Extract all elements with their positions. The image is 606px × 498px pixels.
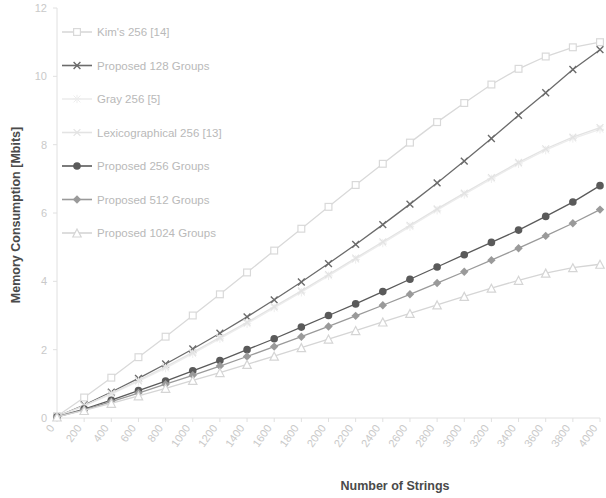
data-point-marker <box>379 288 387 296</box>
legend-label: Proposed 512 Groups <box>97 194 210 206</box>
data-point-marker <box>379 301 387 309</box>
data-point-marker <box>324 322 332 330</box>
x-tick-label: 2400 <box>359 422 383 449</box>
data-point-marker <box>74 29 81 36</box>
data-point-marker <box>488 135 495 142</box>
data-point-marker <box>460 251 468 259</box>
data-point-marker <box>298 279 305 286</box>
data-point-marker <box>514 244 522 252</box>
data-point-marker <box>596 182 604 190</box>
legend-label: Lexicographical 256 [13] <box>97 127 222 139</box>
data-point-marker <box>514 276 522 284</box>
data-point-marker <box>379 318 387 326</box>
data-point-marker <box>379 160 386 167</box>
data-point-marker <box>515 65 522 72</box>
data-point-marker <box>407 201 414 208</box>
data-point-marker <box>488 239 496 247</box>
data-point-marker <box>569 44 576 51</box>
data-point-marker <box>406 290 414 298</box>
data-point-marker <box>569 219 577 227</box>
data-point-marker <box>243 360 251 368</box>
data-point-marker <box>352 241 359 248</box>
x-tick-label: 400 <box>91 422 111 444</box>
x-tick-label: 4000 <box>576 422 600 449</box>
data-point-marker <box>434 180 441 187</box>
legend-label: Proposed 1024 Groups <box>97 227 216 239</box>
data-point-marker <box>460 292 468 300</box>
legend-item-6[interactable]: Proposed 1024 Groups <box>62 227 216 239</box>
data-point-marker <box>407 139 414 146</box>
x-tick-label: 1600 <box>250 422 274 449</box>
x-tick-label: 2800 <box>413 422 437 449</box>
data-point-marker <box>487 256 495 264</box>
data-point-marker <box>461 158 468 165</box>
legend-label: Gray 256 [5] <box>97 93 160 105</box>
data-point-marker <box>406 275 414 283</box>
y-tick-label: 8 <box>41 139 47 151</box>
legend-item-2[interactable]: Gray 256 [5] <box>62 93 160 105</box>
data-point-marker <box>270 342 278 350</box>
data-point-marker <box>298 225 305 232</box>
legend-item-5[interactable]: Proposed 512 Groups <box>62 194 210 206</box>
x-tick-label: 600 <box>118 422 138 444</box>
memory-consumption-chart: 0246810120200400600800100012001400160018… <box>0 0 606 498</box>
data-point-marker <box>515 226 523 234</box>
data-point-marker <box>325 260 332 267</box>
y-tick-label: 10 <box>35 70 47 82</box>
x-tick-label: 1400 <box>223 422 247 449</box>
data-point-marker <box>297 344 305 352</box>
data-point-marker <box>515 112 522 119</box>
y-tick-label: 2 <box>41 344 47 356</box>
data-point-marker <box>488 81 495 88</box>
x-tick-label: 3600 <box>521 422 545 449</box>
y-tick-label: 12 <box>35 2 47 14</box>
x-tick-label: 1200 <box>196 422 220 449</box>
x-tick-label: 1800 <box>277 422 301 449</box>
data-point-marker <box>569 198 577 206</box>
data-point-marker <box>433 263 441 271</box>
x-tick-label: 2600 <box>386 422 410 449</box>
data-point-marker <box>569 66 576 73</box>
data-point-marker <box>189 312 196 319</box>
chart-canvas: 0246810120200400600800100012001400160018… <box>0 0 606 498</box>
data-point-marker <box>461 100 468 107</box>
legend-label: Proposed 256 Groups <box>97 160 210 172</box>
data-point-marker <box>597 46 604 53</box>
data-point-marker <box>324 335 332 343</box>
data-point-marker <box>271 247 278 254</box>
data-point-marker <box>135 354 142 361</box>
data-point-marker <box>352 300 360 308</box>
data-point-marker <box>162 333 169 340</box>
legend-item-1[interactable]: Proposed 128 Groups <box>62 60 210 72</box>
data-point-marker <box>270 352 278 360</box>
x-tick-label: 2000 <box>304 422 328 449</box>
x-tick-label: 3400 <box>494 422 518 449</box>
data-point-marker <box>406 309 414 317</box>
legend-item-4[interactable]: Proposed 256 Groups <box>62 160 210 172</box>
data-point-marker <box>596 205 604 213</box>
data-point-marker <box>542 213 550 221</box>
data-point-marker <box>216 369 224 377</box>
legend-item-0[interactable]: Kim's 256 [14] <box>62 26 170 38</box>
data-point-marker <box>460 268 468 276</box>
x-tick-label: 3200 <box>467 422 491 449</box>
data-point-marker <box>351 312 359 320</box>
data-point-marker <box>542 232 550 240</box>
data-point-marker <box>81 394 88 401</box>
data-point-marker <box>487 284 495 292</box>
series-4 <box>53 182 604 421</box>
x-tick-label: 2200 <box>331 422 355 449</box>
data-point-marker <box>325 312 333 320</box>
y-tick-label: 6 <box>41 207 47 219</box>
legend-item-3[interactable]: Lexicographical 256 [13] <box>62 127 222 139</box>
data-point-marker <box>433 301 441 309</box>
x-tick-label: 1000 <box>169 422 193 449</box>
data-point-marker <box>217 291 224 298</box>
data-point-marker <box>434 119 441 126</box>
legend-label: Kim's 256 [14] <box>97 26 170 38</box>
data-point-marker <box>73 95 81 103</box>
data-point-marker <box>108 374 115 381</box>
x-tick-label: 800 <box>145 422 165 444</box>
data-point-marker <box>244 269 251 276</box>
data-point-marker <box>297 332 305 340</box>
